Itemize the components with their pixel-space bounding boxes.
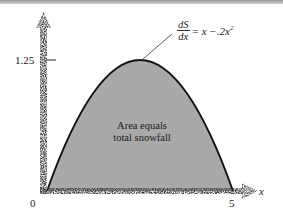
annotation-line-1: Area equals (96, 120, 188, 132)
equation-label: dS dx = x −.2x2 (177, 19, 233, 42)
fraction-denominator: dx (178, 31, 188, 42)
y-axis (36, 12, 51, 194)
derivative-fraction: dS dx (177, 19, 190, 42)
leader-line (143, 34, 172, 59)
y-tick-label: 1.25 (15, 55, 34, 66)
rhs-text: = x −.2x (192, 25, 230, 37)
chart-plot (0, 0, 283, 217)
area-annotation: Area equals total snowfall (96, 120, 188, 144)
x-tick-label-5: 5 (229, 198, 235, 209)
rhs-exponent: 2 (230, 24, 234, 32)
equation-rhs: = x −.2x2 (192, 24, 234, 37)
x-tick-label-0: 0 (30, 198, 36, 209)
fraction-numerator: dS (177, 19, 190, 31)
annotation-line-2: total snowfall (96, 132, 188, 144)
x-axis-label: x (259, 186, 264, 197)
